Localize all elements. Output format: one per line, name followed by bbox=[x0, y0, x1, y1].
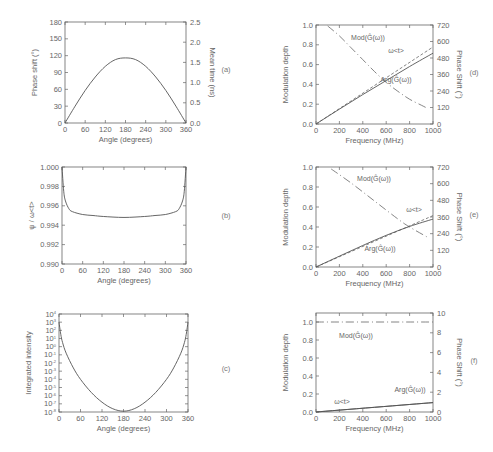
y-tick-label: 0.0 bbox=[303, 408, 313, 417]
panel-label: (b) bbox=[221, 211, 231, 220]
series-line bbox=[59, 322, 188, 411]
y-tick-label: 0.4 bbox=[303, 372, 313, 381]
panel-label: (c) bbox=[222, 364, 231, 373]
y-tick-label: 0.0 bbox=[303, 263, 313, 272]
x-tick-label: 600 bbox=[380, 126, 393, 135]
y-tick-label: 0.6 bbox=[303, 203, 313, 212]
y-tick-label: 101 bbox=[45, 334, 56, 343]
curve-annotation: Mod(Ĝ(ω)) bbox=[339, 331, 373, 340]
x-tick-label: 0 bbox=[63, 125, 67, 134]
figure-canvas: 06012018024030036003060901201501800.00.5… bbox=[0, 0, 493, 452]
y-tick-label: 102 bbox=[45, 326, 56, 335]
plot-frame bbox=[65, 22, 186, 123]
y-tick-label: 100 bbox=[45, 342, 56, 351]
y-right-tick-label: 2 bbox=[437, 388, 441, 397]
y-right-tick-label: 8 bbox=[437, 328, 441, 337]
y-tick-label: 0.996 bbox=[40, 201, 59, 210]
y-axis-label: Integrated intensity bbox=[24, 331, 33, 395]
x-tick-label: 800 bbox=[403, 126, 416, 135]
x-tick-label: 240 bbox=[138, 266, 151, 275]
y-tick-label: 10-1 bbox=[44, 350, 57, 359]
y-tick-label: 10-7 bbox=[44, 399, 57, 408]
y-tick-label: 0.8 bbox=[303, 183, 313, 192]
x-tick-label: 800 bbox=[403, 269, 416, 278]
y-tick-label: 0.2 bbox=[303, 100, 313, 109]
curve-annotation: Mod(Ĝ(ω)) bbox=[357, 174, 391, 183]
y-right-tick-label: 1.0 bbox=[190, 78, 200, 87]
x-axis-label: Angle (degrees) bbox=[97, 424, 151, 433]
y-tick-label: 30 bbox=[54, 102, 62, 111]
y-tick-label: 0.998 bbox=[40, 182, 59, 191]
y-tick-label: 1.0 bbox=[303, 163, 313, 172]
y-tick-label: 10-6 bbox=[44, 391, 57, 400]
y-right-tick-label: 4 bbox=[437, 368, 441, 377]
x-axis-label: Angle (degrees) bbox=[97, 276, 151, 285]
x-axis-label: Frequency (MHz) bbox=[346, 136, 404, 145]
x-tick-label: 240 bbox=[139, 414, 152, 423]
y-right-tick-label: 480 bbox=[437, 54, 450, 63]
x-tick-label: 0 bbox=[57, 414, 61, 423]
x-axis-label: Frequency (MHz) bbox=[346, 279, 404, 288]
y-axis-label: Phase shift (°) bbox=[30, 48, 39, 96]
y-right-tick-label: 0.5 bbox=[190, 98, 200, 107]
y-right-tick-label: 2.5 bbox=[190, 18, 200, 27]
x-tick-label: 360 bbox=[182, 414, 195, 423]
x-tick-label: 0 bbox=[314, 414, 318, 423]
y-right-axis-label: Mean time (ns) bbox=[208, 47, 217, 98]
y-tick-label: 0.2 bbox=[303, 243, 313, 252]
curve-annotation: ω<t> bbox=[334, 398, 350, 405]
y-right-tick-label: 0.0 bbox=[190, 119, 200, 128]
y-tick-label: 104 bbox=[45, 310, 56, 319]
y-tick-label: 60 bbox=[54, 85, 62, 94]
y-right-tick-label: 1.5 bbox=[190, 58, 200, 67]
panel-f: 020040060080010000.00.20.40.60.81.002468… bbox=[281, 309, 478, 434]
y-tick-label: 0.4 bbox=[303, 80, 313, 89]
y-axis-label: Modulation depth bbox=[281, 188, 290, 246]
y-right-axis-label: Phase Shift (°) bbox=[455, 50, 464, 99]
y-right-tick-label: 480 bbox=[437, 196, 450, 205]
y-tick-label: 0.8 bbox=[303, 40, 313, 49]
plot-frame bbox=[62, 167, 186, 264]
y-right-tick-label: 0 bbox=[437, 120, 441, 129]
x-tick-label: 0 bbox=[60, 266, 64, 275]
y-tick-label: 1.0 bbox=[303, 318, 313, 327]
x-tick-label: 300 bbox=[160, 414, 173, 423]
x-tick-label: 60 bbox=[81, 125, 89, 134]
x-tick-label: 400 bbox=[357, 126, 370, 135]
y-tick-label: 0.8 bbox=[303, 336, 313, 345]
y-tick-label: 0.6 bbox=[303, 60, 313, 69]
y-right-tick-label: 600 bbox=[437, 179, 450, 188]
y-right-tick-label: 6 bbox=[437, 348, 441, 357]
y-tick-label: 10-8 bbox=[44, 408, 57, 417]
y-axis-label: Modulation depth bbox=[281, 334, 290, 392]
x-tick-label: 60 bbox=[76, 414, 84, 423]
y-tick-label: 0.4 bbox=[303, 223, 313, 232]
x-tick-label: 200 bbox=[333, 269, 346, 278]
x-tick-label: 600 bbox=[380, 414, 393, 423]
y-tick-label: 0 bbox=[58, 119, 62, 128]
curve-annotation: ω<t> bbox=[388, 47, 404, 54]
x-tick-label: 360 bbox=[180, 266, 193, 275]
y-right-tick-label: 360 bbox=[437, 213, 450, 222]
y-right-tick-label: 600 bbox=[437, 37, 450, 46]
x-tick-label: 400 bbox=[357, 269, 370, 278]
x-tick-label: 200 bbox=[333, 126, 346, 135]
y-right-tick-label: 10 bbox=[437, 309, 445, 318]
y-right-tick-label: 120 bbox=[437, 246, 450, 255]
y-tick-label: 0.994 bbox=[40, 221, 59, 230]
curve-annotation: Arg(Ĝ(ω)) bbox=[380, 75, 411, 84]
y-tick-label: 10-3 bbox=[44, 367, 57, 376]
x-tick-label: 180 bbox=[119, 125, 132, 134]
y-right-tick-label: 2.0 bbox=[190, 38, 200, 47]
series-line bbox=[316, 53, 433, 124]
x-tick-label: 120 bbox=[97, 266, 110, 275]
plot-frame bbox=[59, 314, 188, 412]
y-tick-label: 120 bbox=[49, 51, 62, 60]
y-tick-label: 0.990 bbox=[40, 260, 59, 269]
panel-d: 020040060080010000.00.20.40.60.81.001202… bbox=[281, 21, 479, 146]
x-tick-label: 120 bbox=[99, 125, 112, 134]
plot-frame bbox=[316, 167, 433, 267]
x-tick-label: 120 bbox=[96, 414, 109, 423]
panel-c: 06012018024030036010-810-710-610-510-410… bbox=[24, 310, 231, 434]
x-tick-label: 400 bbox=[357, 414, 370, 423]
